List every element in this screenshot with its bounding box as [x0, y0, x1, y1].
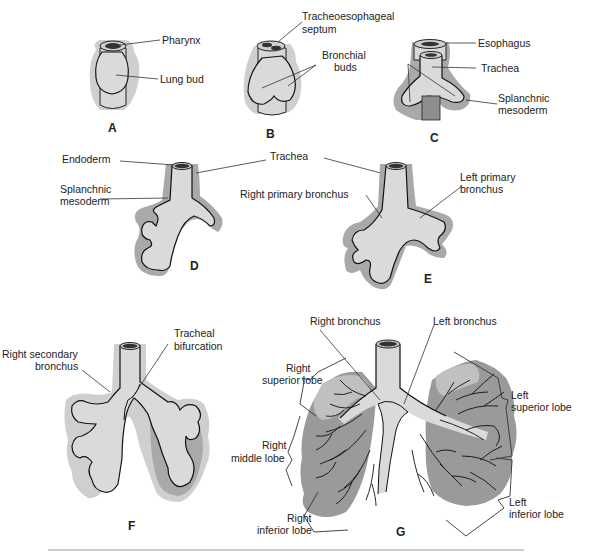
panel-letter-b: B [266, 127, 275, 141]
label-right-middle-lobe-line2: middle lobe [231, 452, 285, 464]
label-tracheoesophageal-septum-line2: septum [302, 23, 337, 35]
panel-letter-g: G [396, 525, 405, 539]
panel-c-trachea-esophagus-stage: Esophagus Trachea Splanchnic mesoderm C [393, 37, 549, 145]
panel-letter-f: F [128, 519, 135, 533]
label-trachea-d-e-group: Trachea [196, 150, 392, 176]
panel-g-lung-lobes-stage: Right bronchus Left bronchus Right super… [231, 315, 572, 539]
label-lung-bud: Lung bud [160, 73, 204, 85]
label-splanchnic-mesoderm-d-line2: mesoderm [60, 195, 110, 207]
label-right-secondary-bronchus-line2: bronchus [35, 360, 78, 372]
panel-letter-a: A [108, 121, 117, 135]
label-right-superior-lobe-line1: Right [286, 362, 311, 374]
label-tracheal-bifurcation-line2: bifurcation [174, 340, 223, 352]
lung-development-figure: Pharynx Lung bud A Tracheoesophageal sep… [0, 0, 594, 560]
label-right-secondary-bronchus-line1: Right secondary [2, 348, 79, 360]
label-esophagus: Esophagus [478, 37, 531, 49]
panel-letter-c: C [430, 131, 439, 145]
label-left-bronchus: Left bronchus [433, 315, 497, 327]
label-splanchnic-mesoderm-c-line1: Splanchnic [498, 92, 549, 104]
label-bronchial-buds-line2: buds [334, 61, 357, 73]
panel-letter-d: D [190, 259, 199, 273]
label-right-primary-bronchus: Right primary bronchus [240, 188, 349, 200]
label-trachea-c: Trachea [481, 62, 519, 74]
label-endoderm: Endoderm [62, 153, 111, 165]
label-right-inferior-lobe-line2: inferior lobe [257, 524, 312, 536]
label-left-superior-lobe-line1: Left [511, 389, 529, 401]
label-trachea-d-e: Trachea [270, 150, 308, 162]
label-right-middle-lobe-line1: Right [262, 439, 287, 451]
label-right-bronchus: Right bronchus [310, 315, 381, 327]
label-left-primary-bronchus-line1: Left primary [460, 171, 516, 183]
label-splanchnic-mesoderm-d-line1: Splanchnic [60, 183, 111, 195]
label-left-superior-lobe-line2: superior lobe [511, 401, 572, 413]
brace-right-middle-lobe [286, 416, 300, 486]
label-tracheal-bifurcation-line1: Tracheal [174, 327, 214, 339]
label-right-superior-lobe-line2: superior lobe [262, 374, 323, 386]
label-tracheoesophageal-septum-line1: Tracheoesophageal [302, 10, 394, 22]
panel-f-secondary-bronchi-stage: Right secondary bronchus Tracheal bifurc… [2, 327, 223, 533]
panel-e-primary-bronchi-stage: Right primary bronchus Left primary bron… [240, 163, 516, 290]
label-left-inferior-lobe-line1: Left [509, 496, 527, 508]
panel-d-primary-budding-stage: Endoderm Splanchnic mesoderm D [60, 153, 223, 276]
label-pharynx: Pharynx [162, 34, 201, 46]
panel-letter-e: E [424, 272, 432, 286]
panel-b-bronchial-buds-stage: Tracheoesophageal septum Bronchial buds … [244, 10, 395, 141]
label-splanchnic-mesoderm-c-line2: mesoderm [498, 104, 548, 116]
label-bronchial-buds-line1: Bronchial [322, 49, 366, 61]
panel-a-lung-bud-stage: Pharynx Lung bud A [90, 34, 204, 135]
label-left-primary-bronchus-line2: bronchus [460, 183, 503, 195]
label-left-inferior-lobe-line2: inferior lobe [509, 508, 564, 520]
label-right-inferior-lobe-line1: Right [287, 512, 312, 524]
